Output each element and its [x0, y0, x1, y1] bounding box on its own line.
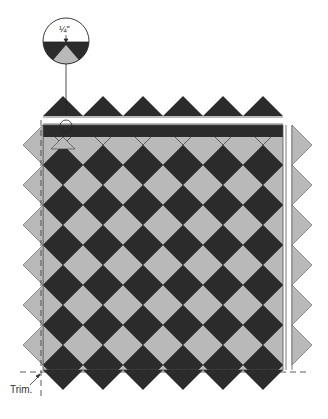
checker-grid	[23, 105, 303, 405]
right-border-strip	[286, 125, 292, 370]
bottom-setting-triangles	[43, 370, 283, 390]
right-setting-triangles	[292, 125, 312, 365]
left-setting-triangles	[23, 125, 43, 365]
top-setting-triangles	[43, 96, 283, 116]
measurement-label: ¼"	[59, 24, 70, 34]
trim-label: Trim.	[10, 384, 32, 395]
quilt-diagram	[0, 0, 328, 419]
